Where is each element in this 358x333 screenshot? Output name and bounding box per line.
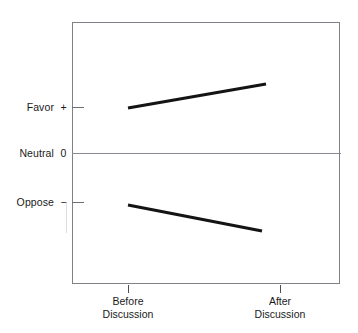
y-axis-label-favor-sign: + (57, 101, 70, 113)
x-axis-label-before-line2: Discussion (73, 308, 183, 321)
y-axis-label-neutral-text: Neutral (19, 147, 54, 159)
x-tick-after (280, 285, 281, 293)
x-axis-label-after: After Discussion (225, 295, 335, 321)
y-axis-label-favor: Favor+ (0, 101, 70, 113)
x-axis-label-before: Before Discussion (73, 295, 183, 321)
y-axis-label-oppose-text: Oppose (17, 196, 54, 208)
y-axis-label-favor-text: Favor (27, 101, 54, 113)
y-axis-label-oppose-sign: − (57, 196, 70, 208)
y-axis-label-oppose: Oppose− (0, 196, 70, 208)
x-tick-before (128, 285, 129, 293)
y-axis-label-neutral-value: 0 (57, 147, 70, 159)
x-axis-label-after-line1: After (225, 295, 335, 308)
neutral-zero-reference-line (72, 153, 341, 154)
x-axis-label-before-line1: Before (73, 295, 183, 308)
x-axis-label-after-line2: Discussion (225, 308, 335, 321)
group-polarization-chart: Favor+ Neutral0 Oppose− Before Discussio… (0, 0, 358, 333)
y-tick-favor (72, 107, 84, 108)
y-axis-label-neutral: Neutral0 (0, 147, 70, 159)
y-tick-oppose (72, 202, 84, 203)
